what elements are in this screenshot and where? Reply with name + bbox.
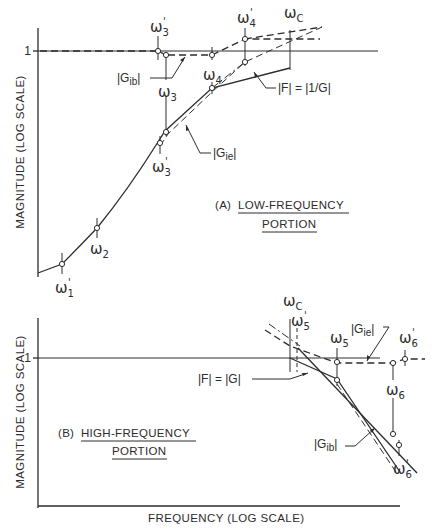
f-curve-b bbox=[290, 358, 400, 472]
point-w4p-top bbox=[242, 36, 247, 41]
label-gie-a: |Gie| bbox=[186, 125, 236, 162]
bode-diagram: 1 MAGNITUDE (LOG SCALE) bbox=[0, 0, 435, 529]
panel-b-caption: (B) HIGH-FREQUENCY PORTION bbox=[58, 427, 196, 459]
point-w3p-low bbox=[157, 140, 162, 145]
point-w3-low bbox=[163, 129, 168, 134]
label-gib-a: |Gib| bbox=[117, 57, 185, 87]
panel-a-caption-prefix: (A) bbox=[215, 199, 231, 211]
label-w2: ω2 bbox=[90, 240, 109, 260]
label-f-a: |F| = |1/G| bbox=[254, 72, 331, 95]
svg-text:|F| = |G|: |F| = |G| bbox=[198, 372, 241, 386]
svg-text:|Gie|: |Gie| bbox=[351, 322, 374, 338]
label-w3p-top: ω3' bbox=[150, 16, 169, 38]
gib-curve bbox=[158, 39, 320, 55]
label-w1p: ω1' bbox=[55, 277, 74, 299]
panel-a-y-axis-title: MAGNITUDE (LOG SCALE) bbox=[14, 75, 26, 228]
label-w4p: ω4' bbox=[237, 7, 256, 29]
point-w6p-low bbox=[396, 442, 401, 447]
point-w3-top bbox=[163, 52, 168, 57]
panel-b-y-axis-title: MAGNITUDE (LOG SCALE) bbox=[14, 335, 26, 488]
label-f-b: |F| = |G| bbox=[198, 372, 308, 386]
label-w6p-top: ω6' bbox=[399, 327, 418, 349]
panel-a-unity-label: 1 bbox=[24, 44, 31, 58]
panel-a-caption: (A) LOW-FREQUENCY PORTION bbox=[215, 199, 349, 232]
panel-b-caption-line2: PORTION bbox=[112, 445, 166, 457]
point-w2 bbox=[94, 225, 99, 230]
point-w6p-top bbox=[402, 356, 407, 361]
point-w6-low bbox=[390, 431, 395, 436]
panel-a-caption-line2: PORTION bbox=[262, 218, 316, 230]
label-w3: ω3 bbox=[158, 83, 177, 103]
gie-extension-dashed bbox=[245, 27, 322, 39]
point-w3p-top bbox=[155, 48, 160, 53]
point-w6-top bbox=[390, 360, 395, 365]
label-gie-b: |Gie| bbox=[351, 322, 389, 361]
label-gib-b: |Gib| bbox=[314, 428, 375, 453]
panel-b-caption-prefix: (B) bbox=[58, 427, 74, 439]
point-w5-low bbox=[334, 377, 339, 382]
point-w1p bbox=[59, 261, 64, 266]
point-w5-top bbox=[334, 359, 339, 364]
point-w4-top bbox=[209, 52, 214, 57]
label-wc-b: ωC bbox=[283, 292, 303, 312]
panel-b-caption-line1: HIGH-FREQUENCY bbox=[81, 427, 190, 439]
svg-text:|Gib|: |Gib| bbox=[117, 71, 140, 87]
point-w4p-low bbox=[242, 59, 247, 64]
panel-a-caption-line1: LOW-FREQUENCY bbox=[238, 199, 344, 211]
label-w5: ω5 bbox=[330, 329, 349, 349]
panel-a-low-frequency: 1 MAGNITUDE (LOG SCALE) bbox=[14, 4, 378, 299]
svg-text:|Gie|: |Gie| bbox=[213, 146, 236, 162]
label-w6p-low: ω6' bbox=[393, 458, 412, 480]
label-w4: ω4 bbox=[203, 66, 222, 86]
panel-b-high-frequency: 1 MAGNITUDE (LOG SCALE) FREQUENCY (LOG S… bbox=[14, 292, 425, 524]
point-w4-low bbox=[209, 85, 214, 90]
label-wc-a: ωC bbox=[284, 4, 304, 24]
label-w5p: ω5' bbox=[291, 310, 310, 332]
svg-text:|Gib|: |Gib| bbox=[314, 437, 337, 453]
panel-b-x-axis-title: FREQUENCY (LOG SCALE) bbox=[148, 512, 304, 524]
svg-text:|F| = |1/G|: |F| = |1/G| bbox=[278, 81, 331, 95]
label-w6: ω6 bbox=[386, 381, 405, 401]
label-w3p-low: ω3' bbox=[152, 156, 171, 178]
